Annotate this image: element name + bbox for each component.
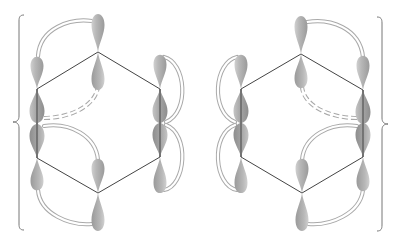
orbital-lobe xyxy=(295,54,308,88)
orbital-lobe xyxy=(235,157,248,193)
orbital-lobe xyxy=(92,14,105,52)
orbital-lobe xyxy=(154,157,167,193)
orbital-lobe xyxy=(92,193,105,231)
fused-pi-lobes xyxy=(234,89,371,157)
orbital-lobe xyxy=(154,55,167,89)
orbital-lobe xyxy=(296,159,309,193)
orbital-lobe xyxy=(357,157,370,191)
orbital-lobe xyxy=(296,193,309,231)
right-brace xyxy=(377,17,388,231)
p-orbitals xyxy=(31,14,167,231)
orbital-lobe xyxy=(235,55,248,89)
orbital-lobe xyxy=(31,158,44,190)
orbital-lobe xyxy=(295,16,308,54)
orbital-lobe xyxy=(92,52,105,90)
resonance-structure-1 xyxy=(30,14,183,231)
benzene-resonance-diagram xyxy=(0,0,398,241)
orbital-lobe xyxy=(357,56,370,90)
orbital-lobe xyxy=(92,159,105,193)
orbital-lobe xyxy=(31,57,44,89)
resonance-structure-2 xyxy=(218,16,371,231)
left-brace xyxy=(13,15,24,230)
